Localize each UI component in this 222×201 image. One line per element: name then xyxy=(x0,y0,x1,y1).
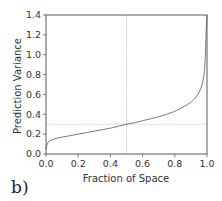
x-tick-label: 1.0 xyxy=(199,158,214,169)
reference-lines xyxy=(46,15,207,154)
x-tick-label: 0.2 xyxy=(71,158,86,169)
x-axis-ticks: 0.00.20.40.60.81.0 xyxy=(38,154,214,169)
y-axis-ticks: 0.00.20.40.60.81.01.21.4 xyxy=(26,9,46,159)
y-tick-label: 0.6 xyxy=(26,89,41,100)
y-tick-label: 1.4 xyxy=(26,9,41,20)
y-tick-label: 1.0 xyxy=(26,49,41,60)
y-tick-label: 0.2 xyxy=(26,128,41,139)
panel-label: b) xyxy=(11,177,29,197)
y-tick-label: 1.2 xyxy=(26,29,41,40)
x-tick-label: 0.4 xyxy=(103,158,118,169)
y-axis-title: Prediction Variance xyxy=(12,38,23,134)
x-axis-title: Fraction of Space xyxy=(83,173,169,184)
chart: 0.00.20.40.60.81.01.21.4 0.00.20.40.60.8… xyxy=(0,0,222,201)
x-tick-label: 0.8 xyxy=(167,158,182,169)
y-tick-label: 0.4 xyxy=(26,109,41,120)
x-tick-label: 0.0 xyxy=(38,158,53,169)
y-tick-label: 0.8 xyxy=(26,69,41,80)
x-tick-label: 0.6 xyxy=(135,158,150,169)
